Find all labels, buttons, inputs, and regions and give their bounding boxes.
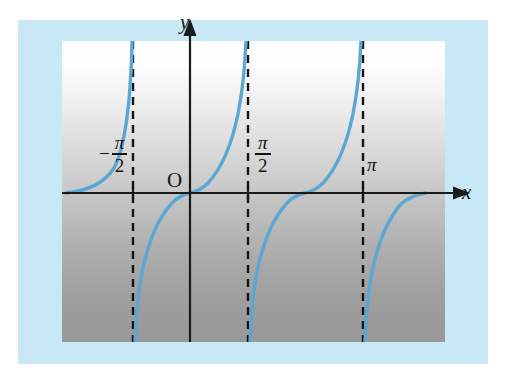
curve-branch-right — [365, 193, 426, 342]
curve-branch-second — [250, 41, 361, 342]
fraction-neg-half-pi: π 2 — [112, 133, 128, 175]
tangent-curve — [66, 41, 426, 342]
tick-label-pi: π — [367, 155, 377, 174]
graph-overlay — [0, 0, 506, 383]
fraction-half-pi: π 2 — [255, 133, 271, 175]
tick-label-neg-half-pi: − π 2 — [99, 133, 127, 175]
fraction-numerator: π — [112, 133, 128, 153]
y-axis-label: y — [180, 12, 189, 33]
minus-sign: − — [99, 144, 110, 163]
axis-group — [62, 34, 455, 342]
fraction-denominator: 2 — [255, 155, 271, 175]
fraction-denominator: 2 — [112, 155, 128, 175]
x-axis-label: x — [462, 182, 471, 203]
fraction-numerator: π — [255, 133, 271, 153]
tick-label-half-pi: π 2 — [255, 133, 271, 175]
figure-container: y x O − π 2 π 2 π — [0, 0, 506, 383]
origin-label: O — [167, 170, 182, 191]
